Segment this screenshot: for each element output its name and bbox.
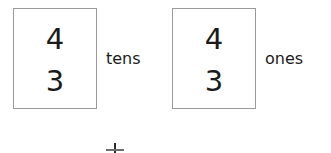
ones-column-box[interactable]: 4 3 [172, 8, 256, 109]
ones-label: ones [265, 51, 303, 67]
place-value-group-ones: 4 3 ones [172, 8, 303, 109]
tens-top-digit: 4 [14, 25, 96, 54]
ones-bottom-digit: 3 [173, 67, 255, 96]
plus-icon [104, 140, 126, 153]
tens-bottom-digit: 3 [14, 67, 96, 96]
plus-icon-vertical-bar [114, 143, 116, 153]
ones-top-digit: 4 [173, 25, 255, 54]
tens-label: tens [106, 51, 141, 67]
place-value-group-tens: 4 3 tens [13, 8, 141, 109]
place-value-worksheet: 4 3 tens 4 3 ones [0, 0, 331, 153]
plus-icon-horizontal-bar [106, 149, 124, 151]
tens-column-box[interactable]: 4 3 [13, 8, 97, 109]
